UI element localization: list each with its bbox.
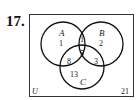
region-b-c: 3	[94, 57, 98, 66]
region-a-b-c: 5	[80, 49, 84, 58]
region-a-b: 1	[80, 35, 84, 44]
region-a-c: 8	[67, 57, 71, 66]
region-c-only: 13	[70, 70, 78, 79]
region-a-only: 1	[59, 39, 63, 48]
region-b-only: 2	[99, 39, 103, 48]
label-a: A	[58, 28, 65, 38]
venn-diagram: A B C U 1 2 1 5 8 3 13 21	[0, 0, 140, 100]
label-b: B	[99, 28, 105, 38]
region-outside: 21	[121, 87, 129, 96]
label-u: U	[32, 87, 39, 96]
label-c: C	[80, 77, 87, 87]
